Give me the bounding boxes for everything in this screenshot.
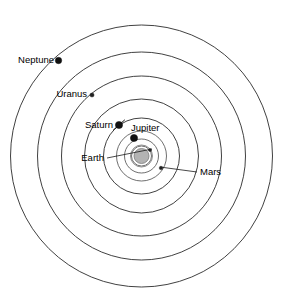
planet-dot-mars[interactable] bbox=[159, 166, 163, 170]
planet-label-uranus: Uranus bbox=[56, 88, 87, 99]
planet-label-saturn: Saturn bbox=[85, 119, 113, 130]
leader-line-mars bbox=[160, 167, 197, 172]
planet-dot-jupiter[interactable] bbox=[130, 134, 137, 141]
planet-dot-saturn[interactable] bbox=[115, 121, 122, 128]
planet-label-mars: Mars bbox=[200, 166, 221, 177]
planet-dot-earth[interactable] bbox=[148, 148, 151, 151]
planet-label-jupiter: Jupiter bbox=[131, 122, 160, 133]
planet-dot-uranus[interactable] bbox=[90, 93, 94, 97]
planet-label-earth: Earth bbox=[81, 152, 104, 163]
planet-label-neptune: Neptune bbox=[18, 54, 54, 65]
planet-dot-neptune[interactable] bbox=[55, 57, 61, 63]
solar-system-canvas: NeptuneUranusSaturnJupiterEarthMars bbox=[0, 0, 293, 302]
planet-labels-group: NeptuneUranusSaturnJupiterEarthMars bbox=[18, 54, 221, 177]
solar-system-diagram: NeptuneUranusSaturnJupiterEarthMars bbox=[0, 0, 293, 302]
sun-group bbox=[131, 145, 153, 167]
